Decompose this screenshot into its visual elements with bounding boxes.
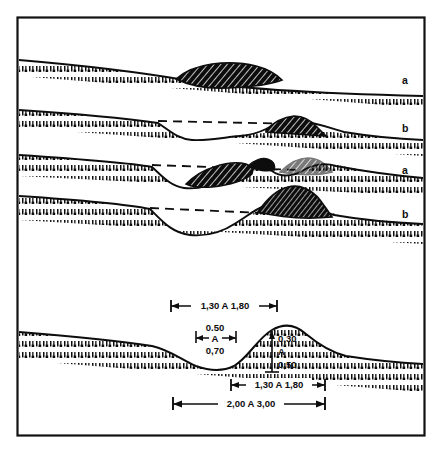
- panel-label-4: b: [402, 208, 408, 220]
- dimension-height-upper-label: 0,30: [278, 333, 297, 344]
- dimension-height-lower-label: 0,50: [278, 359, 297, 370]
- dimension-mound-width-label: 1,30 A 1,80: [255, 379, 303, 390]
- dimension-total-width-label: 2,00 A 3,00: [227, 398, 275, 409]
- dimension-hollow-mid-label: A: [212, 333, 219, 344]
- dimension-top-width-label: 1,30 A 1,80: [201, 300, 249, 311]
- panel-label-1: a: [402, 74, 408, 86]
- dimension-height-mid-label: A: [278, 346, 285, 357]
- dimension-hollow-lower-label: 0,70: [206, 345, 225, 356]
- panel-label-2: b: [402, 122, 408, 134]
- cross-section-figure: a b a: [0, 0, 441, 459]
- panel-label-3: a: [402, 164, 408, 176]
- figure-root: a b a: [0, 0, 441, 459]
